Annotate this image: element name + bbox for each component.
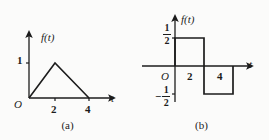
panel-b-xtick-label-4: 4 xyxy=(217,71,223,82)
panel-a-origin-label: O xyxy=(14,99,22,110)
panel-b-ytick-negative-sign: − xyxy=(155,91,161,102)
panel-b-xtick-label-2: 2 xyxy=(187,71,193,82)
panel-a-waveform xyxy=(29,63,89,98)
panel-b-ytick-positive-stack: 1 2 xyxy=(163,23,171,46)
panel-b-ytick-positive-denominator: 2 xyxy=(165,35,170,46)
panel-a-x-axis-label: t xyxy=(111,93,114,104)
panel-a-xtick-label-2: 2 xyxy=(51,104,57,115)
panel-b-ytick-label-negative: − 1 2 xyxy=(155,85,170,108)
figure-container: f(t) t O 1 2 4 (a) xyxy=(0,0,269,140)
panel-a-y-axis-label: f(t) xyxy=(41,32,54,43)
panel-b: f(t) t O 1 2 − 1 2 2 4 (b) xyxy=(134,0,269,140)
panel-a-xtick-label-4: 4 xyxy=(85,104,91,115)
panel-b-ytick-negative-numerator: 1 xyxy=(164,85,169,96)
panel-a: f(t) t O 1 2 4 (a) xyxy=(0,0,135,140)
panel-b-y-axis-label: f(t) xyxy=(181,14,194,25)
panel-b-ytick-label-positive: 1 2 xyxy=(162,23,171,46)
panel-b-origin-label: O xyxy=(161,71,169,82)
panel-a-caption: (a) xyxy=(0,120,135,131)
panel-b-ytick-positive-numerator: 1 xyxy=(165,23,170,34)
panel-b-ytick-negative-denominator: 2 xyxy=(164,97,169,108)
panel-b-ytick-negative-stack: 1 2 xyxy=(162,85,170,108)
panel-a-ytick-label-1: 1 xyxy=(17,55,23,66)
panel-b-x-axis-label: t xyxy=(249,59,252,70)
panel-b-caption: (b) xyxy=(134,120,269,131)
